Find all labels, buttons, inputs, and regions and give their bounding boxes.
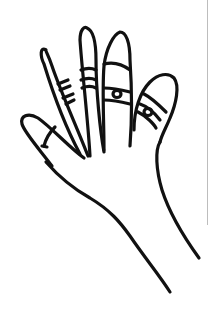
ring-finger	[103, 32, 131, 150]
hand-illustration: hand line drawing with rings on fingers	[0, 0, 222, 323]
palm-left-edge	[46, 162, 170, 292]
page-edge-divider	[207, 0, 208, 225]
pinky-finger	[134, 75, 177, 142]
palm-right-edge	[157, 142, 199, 258]
hand-drawing-svg	[0, 0, 222, 323]
middle-finger	[80, 28, 104, 157]
